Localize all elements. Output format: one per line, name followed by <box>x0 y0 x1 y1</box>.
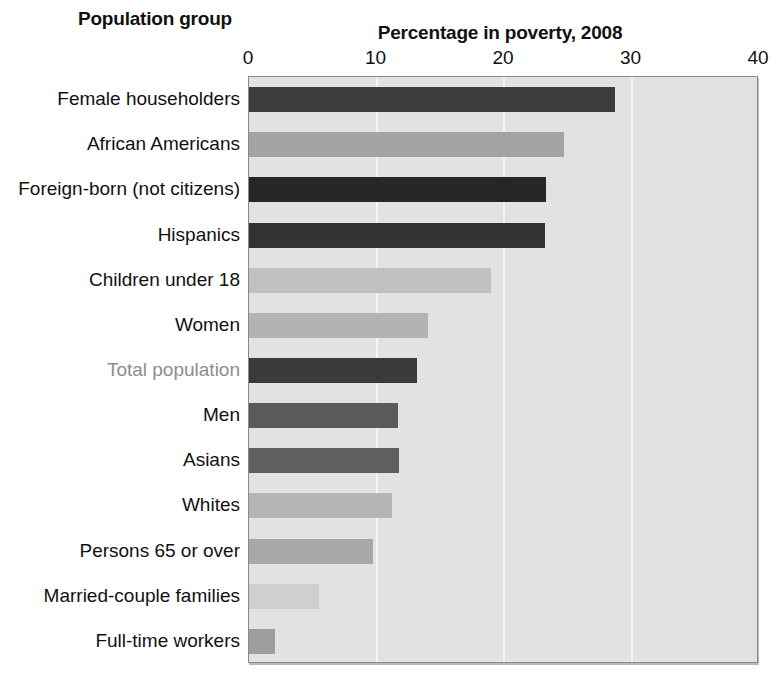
plot-area <box>248 76 758 663</box>
bar <box>249 358 417 383</box>
bar <box>249 223 545 248</box>
category-label: African Americans <box>0 131 240 156</box>
category-label-list: Female householdersAfrican AmericansFore… <box>0 76 240 663</box>
category-label: Married-couple families <box>0 583 240 608</box>
x-tick-label: 20 <box>492 47 513 69</box>
bar <box>249 629 275 654</box>
bar <box>249 493 392 518</box>
x-tick-label: 30 <box>620 47 641 69</box>
bar <box>249 313 428 338</box>
category-label: Female householders <box>0 86 240 111</box>
category-axis-title: Population group <box>60 8 250 30</box>
x-axis-tick-labels: 010203040 <box>0 47 776 73</box>
category-label: Asians <box>0 447 240 472</box>
category-label: Persons 65 or over <box>0 538 240 563</box>
bar <box>249 539 373 564</box>
category-label: Hispanics <box>0 222 240 247</box>
bars <box>249 77 757 662</box>
x-tick-label: 10 <box>365 47 386 69</box>
bar <box>249 132 564 157</box>
category-label: Whites <box>0 492 240 517</box>
poverty-bar-chart: Population group Percentage in poverty, … <box>0 0 776 677</box>
bar <box>249 448 399 473</box>
category-label: Children under 18 <box>0 267 240 292</box>
category-label: Men <box>0 402 240 427</box>
bar <box>249 403 398 428</box>
category-label: Foreign-born (not citizens) <box>0 176 240 201</box>
category-label: Full-time workers <box>0 628 240 653</box>
x-tick-label: 40 <box>747 47 768 69</box>
category-label: Total population <box>0 357 240 382</box>
value-axis-title: Percentage in poverty, 2008 <box>300 22 700 44</box>
bar <box>249 268 491 293</box>
bar <box>249 177 546 202</box>
bar <box>249 584 319 609</box>
category-label: Women <box>0 312 240 337</box>
x-tick-label: 0 <box>243 47 254 69</box>
bar <box>249 87 615 112</box>
